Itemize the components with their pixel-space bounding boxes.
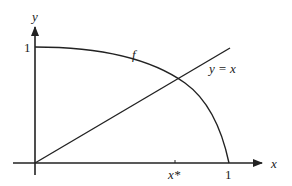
x-axis-label: x	[270, 156, 277, 171]
y-tick-label: 1	[24, 40, 31, 55]
identity-line	[35, 48, 230, 163]
fixed-point-diagram: y x 1 1 x* f y = x	[0, 0, 292, 186]
identity-label: y = x	[207, 61, 236, 76]
x-tick-label: 1	[225, 167, 232, 182]
x-star-label: x*	[167, 167, 181, 182]
y-axis-label: y	[30, 9, 38, 24]
